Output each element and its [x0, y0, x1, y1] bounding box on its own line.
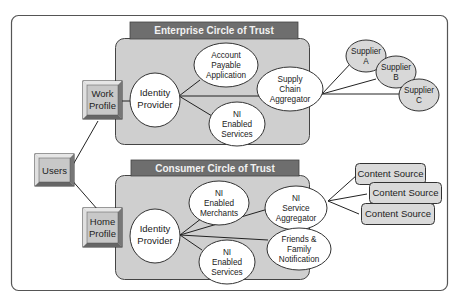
consumer-ni-enabled-services[interactable]: NI Enabled Services: [199, 240, 255, 284]
svg-text:Application: Application: [206, 71, 247, 80]
svg-text:Aggregator: Aggregator: [276, 214, 317, 223]
svg-text:NI: NI: [233, 110, 241, 119]
svg-text:Content Source: Content Source: [372, 187, 438, 198]
svg-text:Services: Services: [211, 268, 242, 277]
ni-service-aggregator[interactable]: NI Service Aggregator: [265, 186, 327, 230]
svg-text:Service: Service: [282, 204, 310, 213]
account-payable-application[interactable]: Account Payable Application: [194, 43, 258, 87]
work-profile-line2: Profile: [89, 100, 116, 111]
svg-text:Services: Services: [221, 130, 252, 139]
home-profile-line1: Home: [90, 216, 115, 227]
svg-text:C: C: [416, 96, 422, 105]
svg-text:NI: NI: [292, 194, 300, 203]
svg-text:Provider: Provider: [137, 235, 172, 246]
home-profile-box[interactable]: Home Profile: [83, 208, 122, 247]
users-box[interactable]: Users: [35, 154, 74, 186]
consumer-title: Consumer Circle of Trust: [155, 163, 275, 174]
home-profile-line2: Profile: [89, 228, 116, 239]
supply-chain-aggregator[interactable]: Supply Chain Aggregator: [257, 67, 323, 111]
content-source-1[interactable]: Content Source: [356, 164, 426, 185]
svg-text:Chain: Chain: [279, 85, 301, 94]
svg-text:A: A: [363, 57, 369, 66]
friends-family-notification[interactable]: Friends & Family Notification: [267, 228, 331, 270]
content-source-2[interactable]: Content Source: [370, 183, 442, 204]
svg-text:Merchants: Merchants: [200, 209, 238, 218]
users-label: Users: [42, 165, 67, 176]
svg-text:Supplier: Supplier: [351, 47, 381, 56]
svg-text:Enabled: Enabled: [212, 258, 242, 267]
svg-text:Friends &: Friends &: [281, 235, 317, 244]
svg-text:Content Source: Content Source: [365, 208, 431, 219]
svg-text:Family: Family: [287, 245, 312, 254]
work-profile-box[interactable]: Work Profile: [83, 81, 122, 119]
circle-of-trust-diagram: Enterprise Circle of Trust Consumer Circ…: [0, 0, 458, 301]
enterprise-identity-provider[interactable]: Identity Provider: [130, 73, 180, 127]
svg-text:NI: NI: [215, 189, 223, 198]
svg-text:NI: NI: [223, 248, 231, 257]
supplier-c[interactable]: Supplier C: [399, 79, 439, 111]
enterprise-ni-enabled-services[interactable]: NI Enabled Services: [209, 102, 265, 146]
svg-text:Notification: Notification: [279, 255, 320, 264]
svg-text:Enabled: Enabled: [222, 120, 252, 129]
svg-text:Content Source: Content Source: [357, 168, 423, 179]
svg-text:Identity: Identity: [140, 87, 171, 98]
svg-text:Identity: Identity: [140, 223, 171, 234]
svg-text:Aggregator: Aggregator: [270, 95, 311, 104]
svg-text:Supply: Supply: [277, 75, 303, 84]
svg-text:B: B: [393, 73, 399, 82]
consumer-identity-provider[interactable]: Identity Provider: [130, 209, 180, 263]
ni-enabled-merchants[interactable]: NI Enabled Merchants: [189, 181, 249, 225]
svg-text:Provider: Provider: [137, 99, 172, 110]
svg-text:Supplier: Supplier: [381, 63, 411, 72]
svg-text:Payable: Payable: [211, 61, 241, 70]
svg-text:Supplier: Supplier: [404, 86, 434, 95]
content-source-3[interactable]: Content Source: [362, 204, 435, 225]
svg-text:Enabled: Enabled: [204, 199, 234, 208]
work-profile-line1: Work: [92, 88, 114, 99]
svg-text:Account: Account: [211, 51, 241, 60]
enterprise-title: Enterprise Circle of Trust: [154, 25, 274, 36]
